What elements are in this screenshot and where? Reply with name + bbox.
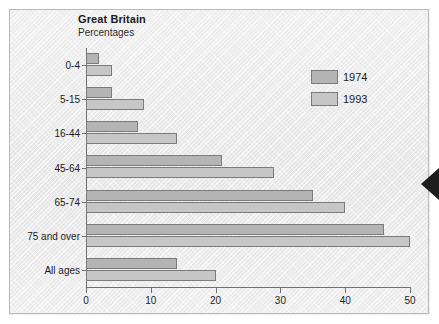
bar-1974-All-ages[interactable]	[86, 258, 177, 269]
legend-swatch-1993	[311, 92, 338, 106]
legend-item-1974[interactable]: 1974	[311, 70, 411, 85]
x-axis-tick	[410, 288, 411, 293]
edge-arrow-left-icon	[421, 168, 439, 200]
x-axis-tick	[86, 288, 87, 293]
chart-screenshot: Great Britain Percentages 010203040500-4…	[0, 0, 439, 324]
x-axis-tick	[151, 288, 152, 293]
bar-1993-0-4[interactable]	[86, 65, 112, 76]
x-axis-tick	[280, 288, 281, 293]
y-axis-tick	[82, 236, 86, 237]
y-axis-tick	[82, 270, 86, 271]
bar-1974-0-4[interactable]	[86, 53, 99, 64]
bar-group	[86, 219, 410, 253]
y-axis-category-label: 16-44	[54, 128, 80, 139]
x-axis-tick-label: 30	[275, 295, 286, 306]
y-axis-tick	[82, 65, 86, 66]
bar-1993-65-74[interactable]	[86, 202, 345, 213]
page-title: Great Britain	[78, 13, 146, 25]
chart-legend: 1974 1993	[311, 70, 411, 114]
x-axis-tick	[216, 288, 217, 293]
legend-swatch-1974	[311, 70, 338, 84]
bar-1974-5-15[interactable]	[86, 87, 112, 98]
x-axis-tick-label: 0	[83, 295, 89, 306]
bar-1974-16-44[interactable]	[86, 121, 138, 132]
x-axis-tick-label: 40	[340, 295, 351, 306]
y-axis-tick	[82, 168, 86, 169]
bar-1993-75-and-over[interactable]	[86, 236, 410, 247]
bar-1993-All-ages[interactable]	[86, 270, 216, 281]
y-axis-category-label: All ages	[44, 264, 80, 275]
bar-1974-45-64[interactable]	[86, 155, 222, 166]
legend-label-1993: 1993	[343, 93, 367, 105]
bar-1974-65-74[interactable]	[86, 190, 313, 201]
bar-1993-5-15[interactable]	[86, 99, 144, 110]
y-axis-tick	[82, 99, 86, 100]
y-axis-category-label: 45-64	[54, 162, 80, 173]
bar-group	[86, 185, 410, 219]
bar-group	[86, 150, 410, 184]
x-axis-tick	[345, 288, 346, 293]
x-axis-tick-label: 20	[210, 295, 221, 306]
x-axis-tick-label: 50	[404, 295, 415, 306]
y-axis-category-label: 75 and over	[27, 230, 80, 241]
chart-subtitle: Percentages	[78, 27, 134, 38]
legend-item-1993[interactable]: 1993	[311, 92, 411, 107]
y-axis-tick	[82, 202, 86, 203]
bar-group	[86, 116, 410, 150]
y-axis-category-label: 65-74	[54, 196, 80, 207]
bar-1993-16-44[interactable]	[86, 133, 177, 144]
y-axis-tick	[82, 133, 86, 134]
x-axis-line	[86, 287, 411, 288]
x-axis-tick-label: 10	[145, 295, 156, 306]
bar-1974-75-and-over[interactable]	[86, 224, 384, 235]
legend-label-1974: 1974	[343, 71, 367, 83]
y-axis-category-label: 0-4	[66, 60, 80, 71]
bar-group	[86, 253, 410, 287]
y-axis-category-label: 5-15	[60, 94, 80, 105]
bar-1993-45-64[interactable]	[86, 167, 274, 178]
